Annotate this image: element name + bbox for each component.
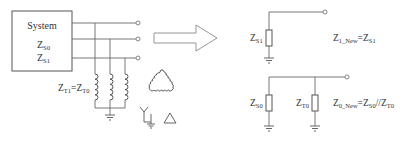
- ground-icon: [264, 126, 274, 131]
- terminal-phase-b: [136, 37, 140, 41]
- three-phase-lines: [72, 21, 140, 74]
- resistor-zt0: [312, 95, 318, 111]
- zt0-label: ZT0: [296, 98, 309, 109]
- z0-new-equation: Z0_New=ZS0//ZT0: [333, 98, 394, 109]
- terminal-phase-c: [136, 56, 140, 60]
- zs0-label: ZS0: [250, 98, 263, 109]
- resistor-zs1: [266, 30, 272, 46]
- zs1-label: ZS1: [250, 33, 263, 44]
- coil-icon: [95, 74, 98, 100]
- coil-icon: [110, 74, 113, 100]
- ground-icon: [264, 58, 274, 63]
- z1-new-equation: Z1_New=ZS1: [333, 33, 376, 44]
- terminal-phase-a: [136, 21, 140, 25]
- sequence-network-diagram: System ZS0 ZS1 ZT1=ZT0: [0, 0, 403, 145]
- resistor-zs0: [266, 95, 272, 111]
- delta-icon: [164, 113, 176, 123]
- terminal-zero: [345, 75, 349, 79]
- system-title: System: [27, 20, 57, 31]
- transformer-impedance-label: ZT1=ZT0: [58, 83, 89, 94]
- delta-winding-icon: [149, 70, 173, 91]
- coil-icon: [125, 74, 128, 100]
- system-block: System ZS0 ZS1: [12, 11, 72, 71]
- grounded-wye-icon: [140, 107, 155, 128]
- positive-sequence-network: ZS1 Z1_New=ZS1: [250, 10, 376, 63]
- terminal-positive: [323, 10, 327, 14]
- transform-arrow-icon: [154, 25, 217, 51]
- zero-sequence-network: ZS0 ZT0 Z0_New=ZS0//ZT0: [250, 75, 394, 131]
- ground-icon: [105, 115, 115, 120]
- transformer-windings: ZT1=ZT0: [58, 74, 128, 120]
- ground-icon: [310, 126, 320, 131]
